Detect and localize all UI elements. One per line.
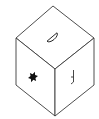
cube-diagram [0,0,99,119]
